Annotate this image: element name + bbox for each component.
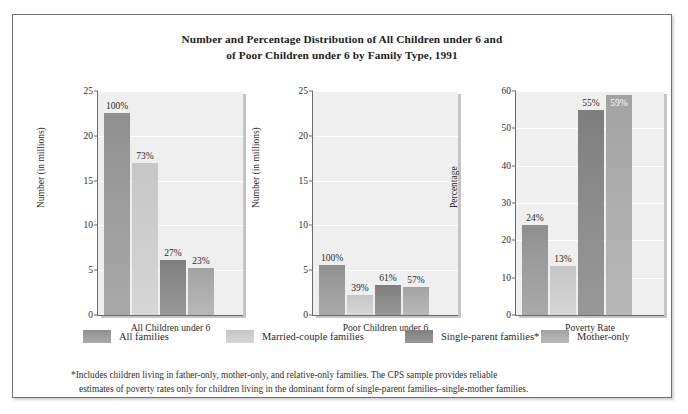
legend-swatch-all-families: [83, 330, 111, 343]
bars-panel-3: 24%13%55%59%: [516, 91, 664, 315]
legend-label-married-couple-families: Married-couple families: [262, 331, 364, 342]
footnote-line-1: *Includes children living in father-only…: [71, 370, 497, 380]
y-axis-tick-label: 10: [502, 273, 512, 283]
bar-married-couple-families: 73%: [132, 163, 158, 315]
y-axis-tick-mark: [94, 225, 98, 226]
bar-single-parent-families: 55%: [578, 110, 604, 315]
bar-value-label: 24%: [526, 213, 543, 223]
y-axis-tick-mark: [309, 270, 313, 271]
y-axis-tick-label: 10: [84, 220, 94, 230]
chart-title-line-2: of Poor Children under 6 by Family Type,…: [13, 47, 671, 63]
y-axis-tick-mark: [512, 91, 516, 92]
y-axis-tick-mark: [512, 315, 516, 316]
y-axis-tick-mark: [94, 91, 98, 92]
legend-swatch-mother-only: [541, 330, 569, 343]
legend-label-mother-only: Mother-only: [577, 331, 630, 342]
y-axis-tick-label: 15: [84, 176, 94, 186]
y-axis-tick-label: 10: [299, 220, 309, 230]
y-axis-tick-label: 40: [502, 161, 512, 171]
legend-swatch-single-parent-families: [405, 330, 433, 343]
figure-frame: Number and Percentage Distribution of Al…: [12, 14, 672, 398]
y-axis-tick-mark: [94, 135, 98, 136]
y-axis-tick-label: 0: [88, 310, 93, 320]
chart-legend: All families Married-couple families Sin…: [13, 330, 671, 354]
legend-item-married-couple-families: Married-couple families: [226, 330, 364, 343]
plot-wrap-panel-3: 24%13%55%59% Poverty Rate 0102030405060: [516, 91, 664, 315]
bar-value-label: 27%: [164, 248, 181, 258]
bar-single-parent-families: 61%: [375, 285, 401, 315]
footnote-line-2: estimates of poverty rates only for chil…: [71, 383, 641, 397]
y-axis-tick-mark: [309, 225, 313, 226]
y-axis-tick-mark: [309, 91, 313, 92]
y-axis-tick-label: 25: [299, 86, 309, 96]
chart-title-line-1: Number and Percentage Distribution of Al…: [182, 33, 503, 45]
y-axis-tick-label: 30: [502, 198, 512, 208]
bar-value-label: 61%: [379, 273, 396, 283]
y-axis-tick-label: 15: [299, 176, 309, 186]
y-axis-tick-label: 0: [506, 310, 511, 320]
bars-panel-2: 100%39%61%57%: [313, 91, 458, 315]
x-axis-line-panel-1: [97, 315, 243, 316]
legend-item-single-parent-families: Single-parent families*: [405, 330, 539, 343]
legend-item-all-families: All families: [83, 330, 169, 343]
y-axis-tick-mark: [512, 128, 516, 129]
y-axis-tick-label: 20: [84, 131, 94, 141]
y-axis-tick-mark: [309, 315, 313, 316]
plot-wrap-panel-2: 100%39%61%57% Poor Children under 6 0510…: [313, 91, 458, 315]
figure-footnote: *Includes children living in father-only…: [71, 369, 641, 396]
y-axis-tick-label: 60: [502, 86, 512, 96]
y-axis-tick-mark: [309, 180, 313, 181]
bar-value-label: 39%: [351, 283, 368, 293]
bar-all-families: 24%: [522, 225, 548, 315]
bar-value-label: 57%: [407, 275, 424, 285]
y-axis-tick-label: 50: [502, 123, 512, 133]
y-axis-tick-label: 20: [299, 131, 309, 141]
y-axis-tick-label: 5: [88, 265, 93, 275]
chart-title: Number and Percentage Distribution of Al…: [13, 31, 671, 63]
bar-married-couple-families: 39%: [347, 295, 373, 315]
y-axis-tick-label: 20: [502, 235, 512, 245]
x-axis-line-panel-3: [515, 315, 664, 316]
legend-label-all-families: All families: [119, 331, 169, 342]
y-axis-tick-mark: [512, 203, 516, 204]
y-axis-tick-label: 5: [303, 265, 308, 275]
legend-swatch-married-couple-families: [226, 330, 254, 343]
bar-single-parent-families: 27%: [160, 260, 186, 315]
legend-item-mother-only: Mother-only: [541, 330, 630, 343]
bar-value-label: 59%: [610, 98, 627, 108]
y-axis-tick-mark: [512, 240, 516, 241]
bar-mother-only: 59%: [606, 95, 632, 315]
y-axis-tick-mark: [94, 270, 98, 271]
bar-value-label: 13%: [554, 254, 571, 264]
bar-mother-only: 23%: [188, 268, 214, 315]
y-axis-tick-mark: [309, 135, 313, 136]
bar-value-label: 100%: [106, 101, 128, 111]
y-axis-tick-label: 0: [303, 310, 308, 320]
bar-married-couple-families: 13%: [550, 266, 576, 315]
bar-value-label: 55%: [582, 98, 599, 108]
bar-mother-only: 57%: [403, 287, 429, 315]
y-axis-tick-mark: [94, 315, 98, 316]
legend-label-single-parent-families: Single-parent families*: [441, 331, 539, 342]
x-axis-line-panel-2: [312, 315, 458, 316]
y-axis-tick-mark: [512, 165, 516, 166]
bar-value-label: 23%: [192, 256, 209, 266]
bar-all-families: 100%: [319, 265, 345, 315]
plot-wrap-panel-1: 100%73%27%23% All Children under 6 05101…: [98, 91, 243, 315]
bar-value-label: 73%: [136, 151, 153, 161]
bar-all-families: 100%: [104, 113, 130, 315]
bars-panel-1: 100%73%27%23%: [98, 91, 243, 315]
y-axis-tick-mark: [512, 277, 516, 278]
y-axis-tick-label: 25: [84, 86, 94, 96]
y-axis-tick-mark: [94, 180, 98, 181]
bar-value-label: 100%: [321, 253, 343, 263]
